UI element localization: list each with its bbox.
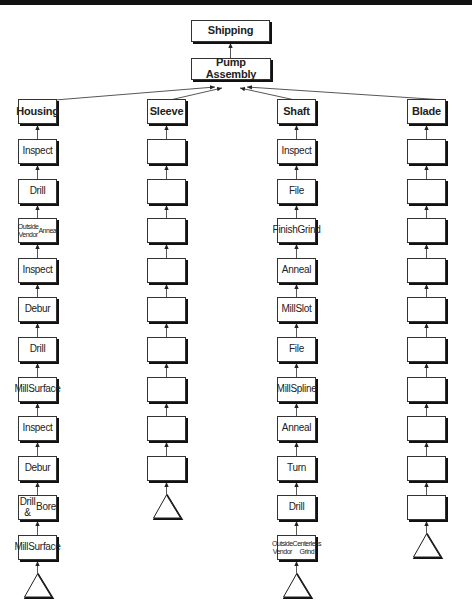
process-step — [407, 416, 446, 441]
process-step: Drill — [18, 179, 57, 204]
process-step: Inspect — [18, 416, 57, 441]
process-step — [147, 139, 186, 164]
process-step — [407, 337, 446, 362]
process-step: Drill &Bore — [18, 495, 57, 520]
process-step — [147, 218, 186, 243]
process-step — [147, 179, 186, 204]
process-step — [407, 218, 446, 243]
process-step — [407, 495, 446, 520]
process-step: MillSpline — [277, 377, 316, 402]
process-step — [407, 377, 446, 402]
process-step: MillSlot — [277, 297, 316, 322]
start-triangle-icon — [154, 495, 181, 518]
column-header-shaft: Shaft — [277, 99, 316, 124]
process-step — [147, 337, 186, 362]
process-step: File — [277, 337, 316, 362]
process-step — [147, 416, 186, 441]
start-triangle-icon — [284, 574, 311, 597]
process-step — [407, 258, 446, 283]
process-step — [147, 377, 186, 402]
process-step: File — [277, 179, 316, 204]
process-step: MillSurface — [18, 535, 57, 560]
process-step: Inspect — [277, 139, 316, 164]
start-triangle-icon — [25, 574, 52, 597]
process-step — [407, 297, 446, 322]
shipping-box: Shipping — [191, 20, 270, 42]
pump-assembly-box: Pump Assembly — [191, 58, 271, 80]
process-step: Debur — [18, 456, 57, 481]
process-step: Anneal — [277, 416, 316, 441]
process-step: Turn — [277, 456, 316, 481]
process-step: Debur — [18, 297, 57, 322]
process-step: Inspect — [18, 258, 57, 283]
column-header-housing: Housing — [18, 99, 57, 124]
process-step: Drill — [18, 337, 57, 362]
process-step — [407, 456, 446, 481]
process-step — [147, 456, 186, 481]
process-step — [407, 179, 446, 204]
process-step — [407, 139, 446, 164]
connector-layer — [0, 0, 472, 610]
start-triangle-icon — [414, 534, 441, 557]
process-step: Anneal — [277, 258, 316, 283]
process-step: Outside VendorAnneal — [18, 218, 57, 243]
process-step — [147, 297, 186, 322]
process-step: Outside VendorCenterless Grind — [277, 535, 316, 560]
column-header-blade: Blade — [407, 99, 446, 124]
process-step: MillSurface — [18, 377, 57, 402]
process-step: FinishGrind — [277, 218, 316, 243]
process-step: Inspect — [18, 139, 57, 164]
process-step: Drill — [277, 495, 316, 520]
process-step — [147, 258, 186, 283]
column-header-sleeve: Sleeve — [147, 99, 186, 124]
